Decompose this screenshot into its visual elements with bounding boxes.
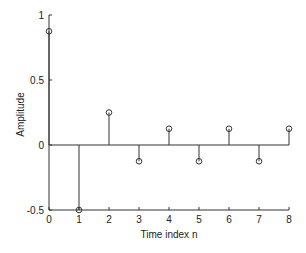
x-tick-label: 0 xyxy=(46,214,52,225)
y-axis-label: Amplitude xyxy=(15,92,26,137)
x-tick-label: 1 xyxy=(76,214,82,225)
y-tick-label: 0 xyxy=(38,140,44,151)
x-tick-label: 3 xyxy=(136,214,142,225)
x-tick-label: 8 xyxy=(286,214,292,225)
y-tick-label: -0.5 xyxy=(27,205,45,216)
x-tick-label: 7 xyxy=(256,214,262,225)
x-tick-label: 2 xyxy=(106,214,112,225)
y-tick-label: 1 xyxy=(38,10,44,21)
x-axis-label: Time index n xyxy=(141,229,198,240)
y-tick-label: 0.5 xyxy=(30,75,44,86)
x-tick-label: 6 xyxy=(226,214,232,225)
x-tick-label: 5 xyxy=(196,214,202,225)
stem-plot: 012345678-0.500.51Time index nAmplitude xyxy=(0,0,306,253)
x-tick-label: 4 xyxy=(166,214,172,225)
